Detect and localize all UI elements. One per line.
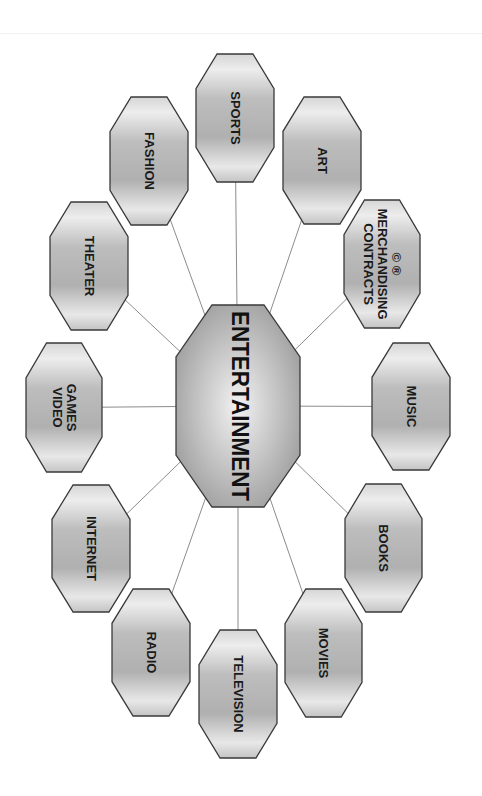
- node-books[interactable]: BOOKS: [345, 484, 422, 612]
- node-label: GAMES: [64, 384, 79, 432]
- node-video-games[interactable]: VIDEOGAMES: [26, 343, 102, 472]
- node-art[interactable]: ART: [283, 97, 361, 224]
- node-label: INTERNET: [84, 516, 99, 581]
- node-radio[interactable]: RADIO: [112, 589, 190, 716]
- node-label: MOVIES: [316, 628, 331, 679]
- node-label: © ®: [389, 253, 404, 276]
- center-label: ENTERTAINMENT: [227, 311, 253, 501]
- node-internet[interactable]: INTERNET: [52, 485, 130, 612]
- node-sports[interactable]: SPORTS: [196, 54, 274, 182]
- node-label: VIDEO: [50, 387, 65, 427]
- node-label: MUSIC: [404, 386, 419, 429]
- node-label: MERCHANDISING: [375, 208, 390, 319]
- node-television[interactable]: TELEVISION: [199, 630, 277, 758]
- node-label: CONTRACTS: [361, 223, 376, 305]
- node-fashion[interactable]: FASHION: [110, 97, 188, 225]
- node-label: THEATER: [82, 236, 97, 297]
- node-label: ART: [315, 147, 330, 174]
- node-label: FASHION: [142, 132, 157, 190]
- node-movies[interactable]: MOVIES: [285, 589, 362, 717]
- node-contracts-merchandising[interactable]: CONTRACTSMERCHANDISING© ®: [344, 200, 420, 328]
- node-label: SPORTS: [228, 91, 243, 145]
- node-theater[interactable]: THEATER: [50, 202, 128, 330]
- node-label: RADIO: [144, 632, 159, 674]
- node-label: TELEVISION: [231, 655, 246, 732]
- entertainment-mind-map: SPORTSARTCONTRACTSMERCHANDISING© ®MUSICB…: [0, 0, 482, 796]
- node-label: BOOKS: [376, 524, 391, 572]
- center-node[interactable]: ENTERTAINMENT: [176, 305, 300, 507]
- node-music[interactable]: MUSIC: [372, 343, 450, 470]
